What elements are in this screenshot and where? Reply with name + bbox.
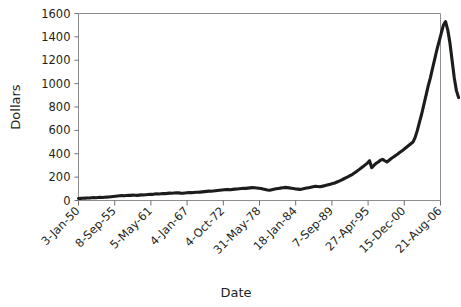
y-tick-label: 1000 <box>41 77 70 91</box>
y-axis-title: Dollars <box>8 84 23 129</box>
y-tick-label: 800 <box>49 100 71 114</box>
y-tick-label: 400 <box>49 147 71 161</box>
x-axis-title: Date <box>220 285 251 300</box>
y-tick-label: 1600 <box>41 7 70 21</box>
y-tick-label: 200 <box>49 170 71 184</box>
y-tick-label: 1200 <box>41 53 70 67</box>
y-tick-label: 0 <box>63 194 70 208</box>
y-tick-label: 1400 <box>41 30 70 44</box>
y-tick-label: 600 <box>49 123 71 137</box>
chart-svg: 02004006008001000120014001600 3-Jan-508-… <box>0 0 461 307</box>
chart-figure: 02004006008001000120014001600 3-Jan-508-… <box>0 0 461 307</box>
